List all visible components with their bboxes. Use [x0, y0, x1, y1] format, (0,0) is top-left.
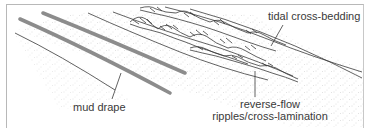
label-mud-drape: mud drape — [73, 101, 126, 113]
label-tidal-cross-bedding: tidal cross-bedding — [268, 10, 360, 22]
label-reverse-flow: reverse-flow ripples/cross-lamination — [210, 98, 330, 122]
label-reverse-flow-line2: ripples/cross-lamination — [210, 110, 330, 122]
label-reverse-flow-line1: reverse-flow — [210, 98, 330, 110]
